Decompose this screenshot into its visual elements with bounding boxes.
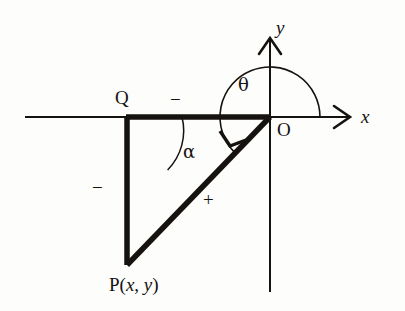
- segment-op: [127, 117, 270, 265]
- x-axis-label: x: [361, 107, 369, 126]
- point-p-label: P(x, y): [109, 275, 159, 294]
- y-axis-label: y: [276, 18, 284, 37]
- diagram-canvas: [0, 0, 405, 311]
- sign-horizontal-minus: −: [170, 90, 181, 109]
- point-q-label: Q: [115, 88, 129, 107]
- point-p-sep: ,: [134, 274, 144, 295]
- sign-hypotenuse-plus: +: [203, 190, 214, 209]
- sign-vertical-minus: −: [92, 178, 103, 197]
- alpha-label: α: [183, 143, 195, 161]
- geometry-figure: x y O Q P(x, y) θ α − − +: [0, 0, 405, 311]
- origin-label: O: [277, 120, 291, 139]
- point-p-prefix: P(: [109, 274, 126, 295]
- point-p-suffix: ): [152, 274, 158, 295]
- theta-label: θ: [238, 76, 249, 94]
- alpha-arc: [168, 117, 184, 170]
